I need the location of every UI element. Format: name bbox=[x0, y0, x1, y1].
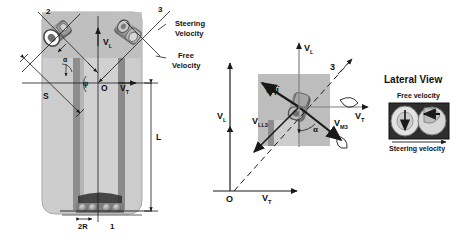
legend-free-velocity-line2: Velocity bbox=[172, 62, 200, 70]
velocity-vt-right-label: VT bbox=[355, 112, 364, 123]
velocity-spsi-label: Sψ̇ bbox=[266, 86, 279, 95]
chassis-rail-left bbox=[73, 58, 80, 210]
dim-2r-label: 2R bbox=[78, 223, 88, 231]
dim-l-label: L bbox=[156, 133, 161, 142]
velocity-vl-left-sub: L bbox=[223, 117, 226, 123]
top-view-vt-label: VT bbox=[120, 84, 129, 95]
velocity-origin-label: O bbox=[226, 195, 233, 204]
vt-swirl-icon bbox=[340, 98, 358, 108]
top-view-origin-label: O bbox=[101, 84, 108, 93]
legend-steering-velocity-line2: Velocity bbox=[175, 30, 203, 38]
legend-free-velocity-line1: Free bbox=[178, 52, 194, 60]
lateral-view-panel bbox=[389, 103, 449, 142]
legend-steering-leader bbox=[158, 24, 166, 30]
global-vl-midarrow bbox=[227, 126, 234, 132]
top-view-panel bbox=[20, 11, 170, 222]
velocity-castor-3-number: 3 bbox=[330, 63, 335, 72]
top-view-vl-label: VL bbox=[103, 38, 112, 49]
dim-s-label: S bbox=[43, 92, 49, 101]
lateral-steering-velocity-label: Steering velocity bbox=[389, 145, 445, 152]
figure-svg bbox=[0, 0, 469, 241]
top-view-vt-sub: T bbox=[126, 89, 129, 95]
velocity-vm3-sub: M3 bbox=[340, 124, 348, 130]
lateral-free-velocity-label: Free velocity bbox=[397, 92, 440, 99]
velocity-vl-top-label: VL bbox=[304, 44, 313, 55]
figure-root: 2 3 Steering Velocity Free Velocity VL V… bbox=[0, 0, 469, 241]
velocity-vll3-label: VLL3 bbox=[252, 117, 268, 128]
velocity-vm3-label: VM3 bbox=[334, 119, 348, 130]
velocity-vl-left-label: VL bbox=[217, 112, 226, 123]
velocity-vt-bottom-label: VT bbox=[262, 194, 271, 205]
velocity-alpha-label: α bbox=[313, 126, 318, 134]
chassis-rail-right bbox=[118, 58, 125, 210]
velocity-diagram-panel bbox=[213, 43, 368, 191]
velocity-vl-top-sub: L bbox=[310, 49, 313, 55]
chassis-center-band bbox=[84, 58, 118, 210]
wheel-1-number: 1 bbox=[110, 223, 114, 231]
top-view-psi-label: ψ bbox=[83, 80, 88, 87]
velocity-vt-right-sub: T bbox=[361, 117, 364, 123]
legend-free-leader bbox=[156, 56, 166, 58]
legend-steering-velocity-line1: Steering bbox=[175, 20, 205, 28]
velocity-vt-bottom-sub: T bbox=[268, 199, 271, 205]
lateral-view-title: Lateral View bbox=[384, 74, 442, 85]
castor-3-number: 3 bbox=[158, 6, 162, 14]
velocity-vll3-sub: LL3 bbox=[258, 122, 268, 128]
castor-2-number: 2 bbox=[46, 8, 50, 16]
top-view-alpha-label: α bbox=[63, 56, 67, 63]
top-view-vl-sub: L bbox=[109, 43, 112, 49]
